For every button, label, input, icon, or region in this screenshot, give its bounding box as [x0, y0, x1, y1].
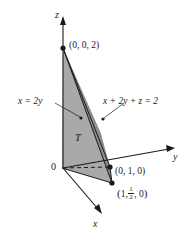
- vertex-dot-z-intercept: [60, 45, 65, 50]
- vertex-dot-xy-point: [109, 180, 114, 185]
- region-label-T: T: [75, 133, 81, 144]
- point-label-z-intercept: (0, 0, 2): [69, 41, 99, 51]
- z-axis-arrowhead: [60, 16, 66, 25]
- figure-canvas: z y x 0 (0, 0, 2) (0, 1, 0) (1,12, 0) x …: [0, 0, 184, 234]
- annotation-plane-right: x + 2y + z = 2: [103, 97, 158, 107]
- y-axis-label: y: [173, 152, 177, 162]
- xy-point-x-value: 1,: [121, 189, 128, 199]
- xy-point-z-value: , 0: [134, 189, 144, 199]
- xy-point-fraction-denominator: 2: [128, 194, 134, 201]
- leader-dot-plane-left: [79, 116, 82, 119]
- leader-dot-plane-right: [101, 117, 104, 120]
- xy-point-fraction: 12: [128, 186, 134, 202]
- annotation-plane-left: x = 2y: [18, 97, 42, 107]
- x-axis-label: x: [93, 219, 97, 229]
- vertex-dot-y-intercept: [107, 164, 112, 169]
- point-label-xy-point: (1,12, 0): [117, 186, 147, 202]
- xy-point-close-paren: ): [144, 187, 148, 199]
- diagram-svg: [0, 0, 184, 234]
- origin-label: 0: [51, 162, 56, 172]
- z-axis-label: z: [55, 10, 59, 20]
- point-label-y-intercept: (0, 1, 0): [115, 167, 145, 177]
